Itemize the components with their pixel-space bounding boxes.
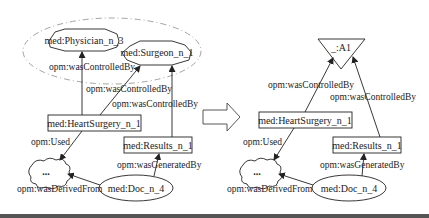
node-doc[interactable]: med:Doc_n_4 [99,175,173,201]
label-doc-results-r: opm:wasGeneratedBy [320,160,405,170]
label-hs-used: opm:Used [31,137,70,147]
svg-text:med:Results_n_1: med:Results_n_1 [332,140,401,151]
node-results-r[interactable]: med:Results_n_1 [332,137,401,153]
svg-text:med:Doc_n_4: med:Doc_n_4 [321,183,378,194]
svg-text:_:A1: _:A1 [330,42,351,53]
label-hs-physician: opm:wasControlledBy [49,62,135,72]
svg-text:med:Doc_n_4: med:Doc_n_4 [108,183,165,194]
right-arrow-icon [203,103,240,131]
label-hs-surgeon: opm:wasControlledBy [86,84,172,94]
node-heart-surgery-r[interactable]: med:HeartSurgery_n_1 [258,112,352,128]
label-results-surgeon: opm:wasControlledBy [112,99,198,109]
label-hs-used-r: opm:Used [243,137,282,147]
label-hs-agent: opm:wasControlledBy [268,80,354,90]
svg-text:med:HeartSurgery_n_1: med:HeartSurgery_n_1 [47,118,141,129]
label-results-agent: opm:wasControlledBy [330,92,416,102]
svg-text:med:Surgeon_n_1: med:Surgeon_n_1 [120,47,193,58]
left-graph: med:Physician_n_3 med:Surgeon_n_1 med:He… [17,18,202,201]
node-results[interactable]: med:Results_n_1 [123,137,192,153]
svg-text:med:Physician_n_3: med:Physician_n_3 [45,35,124,46]
bottom-border [0,214,429,218]
node-agent[interactable]: _:A1 [318,39,365,69]
label-doc-cloud: opm:wasDerivedFrom [17,184,103,194]
svg-text:med:HeartSurgery_n_1: med:HeartSurgery_n_1 [258,115,352,126]
label-doc-results: opm:wasGeneratedBy [117,160,202,170]
svg-text:...: ... [253,166,261,177]
node-heart-surgery[interactable]: med:HeartSurgery_n_1 [47,115,141,131]
label-doc-cloud-r: opm:wasDerivedFrom [227,184,313,194]
node-doc-r[interactable]: med:Doc_n_4 [312,175,386,201]
svg-text:med:Results_n_1: med:Results_n_1 [123,140,192,151]
svg-text:...: ... [42,166,50,177]
provenance-diagram: med:Physician_n_3 med:Surgeon_n_1 med:He… [0,0,429,218]
right-graph[interactable]: _:A1 med:HeartSurgery_n_1 med:Results_n_… [227,39,416,201]
node-physician[interactable]: med:Physician_n_3 [45,29,124,51]
